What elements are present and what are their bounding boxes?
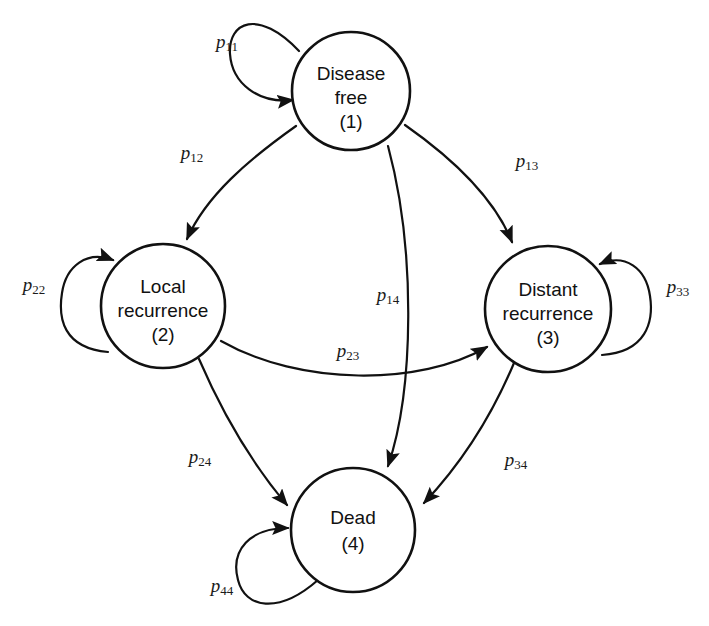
state-label-3-line2: recurrence: [503, 303, 594, 324]
prob-base-p33: p: [665, 276, 677, 297]
transition-p12: [187, 126, 296, 239]
prob-base-p34: p: [503, 449, 515, 470]
state-label-3-line1: Distant: [518, 279, 578, 300]
prob-label-p24: p24: [187, 446, 212, 469]
prob-sub-p23: 23: [346, 348, 359, 363]
transition-p13: [405, 125, 512, 242]
state-node-disease-free[interactable]: Disease free (1): [292, 32, 410, 150]
prob-sub-p24: 24: [198, 454, 212, 469]
prob-sub-p44: 44: [220, 583, 234, 598]
state-label-3-line3: (3): [536, 327, 559, 348]
diagram-canvas: Disease free (1) Local recurrence (2) Di…: [0, 0, 709, 626]
prob-sub-p11: 11: [225, 39, 238, 54]
state-node-local-recurrence[interactable]: Local recurrence (2): [101, 244, 225, 368]
state-label-2-line2: recurrence: [118, 300, 209, 321]
prob-base-p22: p: [21, 274, 33, 295]
prob-sub-p13: 13: [525, 158, 538, 173]
state-label-4-line1: Dead: [330, 507, 375, 528]
state-label-2-line1: Local: [140, 276, 185, 297]
state-label-1-line2: free: [335, 87, 368, 108]
state-label-1-line1: Disease: [317, 63, 386, 84]
state-label-2-line3: (2): [151, 324, 174, 345]
prob-label-p44: p44: [209, 575, 234, 598]
self-loop-p11: [230, 24, 299, 100]
prob-base-p12: p: [179, 142, 191, 163]
prob-sub-p12: 12: [190, 150, 203, 165]
prob-base-p11: p: [214, 31, 226, 52]
state-node-distant-recurrence[interactable]: Distant recurrence (3): [485, 246, 611, 372]
state-circle-4[interactable]: [291, 468, 415, 592]
prob-base-p24: p: [187, 446, 199, 467]
state-node-dead[interactable]: Dead (4): [291, 468, 415, 592]
prob-base-p44: p: [209, 575, 221, 596]
prob-base-p14: p: [375, 284, 387, 305]
prob-label-p13: p13: [514, 150, 539, 173]
markov-state-diagram: Disease free (1) Local recurrence (2) Di…: [0, 0, 709, 626]
prob-sub-p33: 33: [676, 284, 689, 299]
prob-sub-p14: 14: [386, 292, 400, 307]
prob-base-p13: p: [514, 150, 526, 171]
prob-sub-p34: 34: [514, 457, 528, 472]
prob-label-p14: p14: [375, 284, 400, 307]
state-label-4-line2: (4): [341, 533, 364, 554]
prob-label-p12: p12: [179, 142, 204, 165]
prob-sub-p22: 22: [32, 282, 45, 297]
transition-p24: [199, 359, 287, 505]
prob-label-p23: p23: [335, 340, 360, 363]
prob-label-p22: p22: [21, 274, 46, 297]
prob-base-p23: p: [335, 340, 347, 361]
prob-label-p34: p34: [503, 449, 528, 472]
state-label-1-line3: (1): [339, 111, 362, 132]
transition-p34: [424, 363, 514, 503]
prob-label-p33: p33: [665, 276, 690, 299]
